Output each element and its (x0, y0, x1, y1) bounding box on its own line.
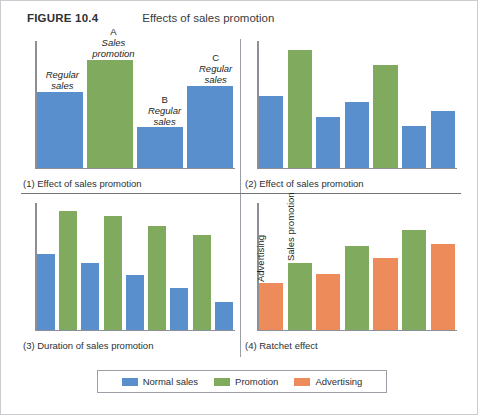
bar (316, 274, 340, 329)
x-axis-2 (257, 168, 457, 170)
plot-area-4: AdvertisingSales promotion (257, 203, 457, 331)
bar (431, 111, 455, 168)
bar-series-2 (259, 42, 455, 168)
legend-swatch-promotion (214, 378, 230, 386)
bar (137, 127, 183, 167)
legend-swatch-normal (122, 378, 138, 386)
legend-item[interactable]: Normal sales (122, 376, 198, 387)
bar (345, 246, 369, 329)
bar (104, 216, 122, 329)
bar (37, 92, 83, 168)
legend-label: Normal sales (143, 376, 198, 387)
bar (373, 65, 397, 167)
bar (259, 283, 283, 330)
panel-caption-3: (3) Duration of sales promotion (23, 340, 153, 351)
bar (126, 275, 144, 329)
figure-container: FIGURE 10.4 Effects of sales promotion R… (0, 0, 478, 415)
x-axis-1 (35, 168, 235, 170)
panel-grid: Regular salesASales promotionBRegular sa… (21, 35, 461, 357)
bar (87, 60, 133, 167)
panel-caption-2: (2) Effect of sales promotion (245, 178, 364, 189)
bar (316, 117, 340, 167)
plot-area-3 (35, 203, 235, 331)
chart-panel-4: AdvertisingSales promotion (4) Ratchet e… (243, 197, 461, 355)
bar (148, 226, 166, 329)
bar-series-4 (259, 204, 455, 330)
bar (402, 126, 426, 168)
bar (215, 302, 233, 330)
bar (170, 288, 188, 330)
bar (37, 254, 55, 330)
bar (288, 50, 312, 167)
chart-panel-3: (3) Duration of sales promotion (21, 197, 239, 355)
bar-series-1 (37, 42, 233, 168)
legend-label: Advertising (315, 376, 362, 387)
bar (59, 211, 77, 329)
x-axis-4 (257, 330, 457, 332)
legend-swatch-advertising (294, 378, 310, 386)
bar-series-3 (37, 204, 233, 330)
legend-item[interactable]: Promotion (214, 376, 278, 387)
bar (288, 263, 312, 330)
legend-label: Promotion (235, 376, 278, 387)
figure-number: FIGURE 10.4 (27, 12, 98, 24)
panel-divider-vertical (240, 39, 241, 357)
bar (402, 230, 426, 330)
x-axis-3 (35, 330, 235, 332)
chart-panel-2: (2) Effect of sales promotion (243, 35, 461, 193)
plot-area-2 (257, 41, 457, 169)
chart-panel-1: Regular salesASales promotionBRegular sa… (21, 35, 239, 193)
panel-caption-4: (4) Ratchet effect (245, 340, 318, 351)
bar (193, 235, 211, 330)
chart-legend: Normal salesPromotionAdvertising (97, 370, 387, 393)
bar (431, 244, 455, 330)
figure-title: Effects of sales promotion (142, 12, 274, 24)
bar (81, 263, 99, 330)
figure-header: FIGURE 10.4 Effects of sales promotion (1, 1, 478, 35)
panel-divider-horizontal (21, 193, 461, 194)
plot-area-1: Regular salesASales promotionBRegular sa… (35, 41, 235, 169)
panel-caption-1: (1) Effect of sales promotion (23, 178, 142, 189)
bar (259, 96, 283, 168)
bar (345, 102, 369, 168)
bar (187, 86, 233, 168)
bar (373, 258, 397, 330)
legend-item[interactable]: Advertising (294, 376, 362, 387)
